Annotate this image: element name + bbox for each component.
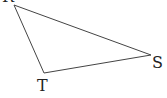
triangle-rts [14, 5, 151, 73]
vertex-label-r: R [2, 0, 15, 6]
vertex-label-t: T [37, 76, 48, 95]
vertex-label-s: S [152, 53, 163, 72]
triangle-diagram: R T S [0, 0, 167, 98]
